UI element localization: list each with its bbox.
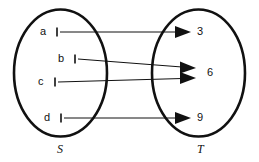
- element-label-9: 9: [197, 112, 203, 123]
- arrow-c-to-6: [58, 72, 196, 84]
- element-label-c: c: [38, 76, 44, 87]
- element-label-b: b: [58, 53, 64, 64]
- element-label-a: a: [40, 26, 46, 37]
- mapping-diagram-canvas: a b c d 3 6 9 S T: [0, 0, 259, 162]
- arrow-d-to-9: [64, 112, 191, 124]
- arrow-b-to-6: [78, 59, 196, 74]
- arrow-a-to-3: [60, 26, 191, 38]
- set-label-s: S: [57, 143, 63, 155]
- element-label-6: 6: [207, 67, 213, 78]
- set-label-t: T: [197, 143, 204, 155]
- element-label-3: 3: [197, 26, 203, 37]
- element-label-d: d: [44, 112, 50, 123]
